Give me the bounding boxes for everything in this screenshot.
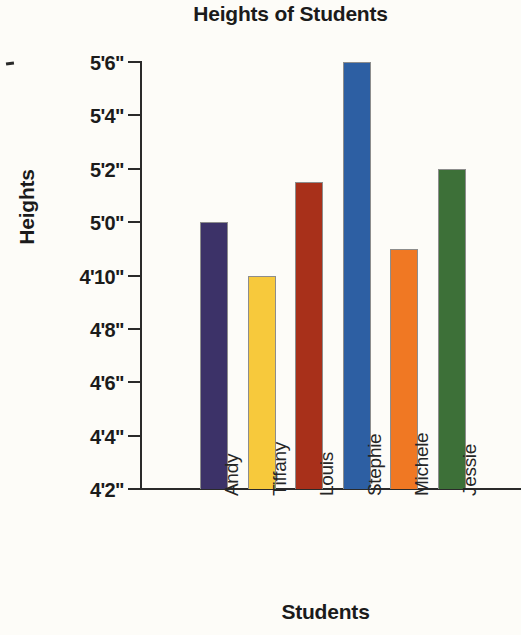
bar-stephie (343, 62, 371, 489)
x-axis-label-text: Andy (221, 454, 243, 496)
x-axis-label-text: Tiffany (269, 442, 291, 496)
y-axis-tick-label-text: 4'10" (79, 266, 124, 289)
y-axis-tick-label-text: 4'6" (90, 372, 124, 395)
y-axis-tick-label-text: 5'4" (90, 105, 124, 128)
x-axis-title: Students (130, 600, 521, 624)
y-axis-tick-label-text: 5'6" (90, 52, 124, 75)
bar-andy (200, 222, 228, 489)
plot-area (140, 62, 521, 489)
x-axis-label-text: Michele (411, 433, 433, 496)
y-axis-tick-label-text: 5'0" (90, 212, 124, 235)
x-axis-label-text: Jessie (459, 444, 481, 496)
x-axis-label-text: Louis (316, 452, 338, 496)
scan-artifact-mark (6, 61, 14, 65)
y-axis-tick-label-text: 4'8" (90, 319, 124, 342)
bar-chart: Heights of Students Heights Students 5'6… (0, 0, 521, 635)
y-axis-tick-label-text: 4'2" (90, 479, 124, 502)
y-axis-tick-label-text: 4'4" (90, 426, 124, 449)
chart-title: Heights of Students (0, 2, 521, 26)
bar-jessie (438, 169, 466, 489)
y-axis-tick-label-text: 5'2" (90, 159, 124, 182)
x-axis-label-text: Stephie (364, 434, 386, 496)
bar-louis (295, 182, 323, 489)
y-axis-title: Heights (15, 152, 39, 262)
